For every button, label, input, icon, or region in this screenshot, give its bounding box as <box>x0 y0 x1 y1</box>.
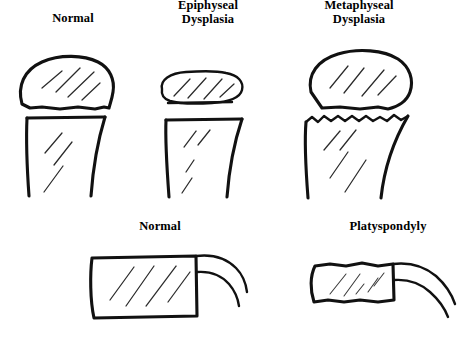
platyspondyly-posterior-element-bottom <box>394 280 448 317</box>
meta-dys-epiphysis-hatching <box>330 66 396 96</box>
dysplastic-epiphysis-hatching <box>174 78 234 99</box>
drawing-platyspondyly <box>311 263 455 317</box>
drawing-metaphyseal-dysplasia <box>305 51 411 198</box>
epi-dys-shaft-right <box>227 119 242 197</box>
platyspondyly-posterior-element-top <box>393 264 455 305</box>
normal-metaphysis-outline <box>27 117 105 118</box>
epi-dys-shaft-hatching <box>182 130 210 193</box>
label-normal-long-bone: Normal <box>18 11 128 25</box>
normal-shaft-right <box>91 117 105 196</box>
normal-vertebral-body-outline <box>91 256 197 318</box>
platyspondyly-body-outline <box>311 263 394 302</box>
dysplastic-epiphysis-base <box>168 102 232 103</box>
normal-posterior-element-bottom <box>197 272 239 306</box>
platyspondyly-body-hatching <box>330 273 384 296</box>
epi-dys-shaft-left <box>166 120 169 197</box>
normal-posterior-element-top <box>196 256 247 293</box>
label-metaphyseal-dysplasia: Metaphyseal Dysplasia <box>296 0 422 26</box>
normal-shaft-left <box>27 118 29 196</box>
drawing-epiphyseal-dysplasia <box>162 71 243 197</box>
epi-dys-metaphysis-outline <box>166 119 242 120</box>
irregular-metaphyseal-margin <box>306 115 408 122</box>
normal-epiphysis-hatching <box>42 68 100 100</box>
meta-dys-shaft-right <box>381 116 408 198</box>
meta-dys-shaft-left <box>305 122 308 198</box>
normal-vertebral-body-hatching <box>110 266 190 306</box>
meta-dys-shaft-hatching <box>324 130 366 192</box>
normal-shaft-hatching <box>44 133 72 192</box>
label-normal-vertebra: Normal <box>105 219 215 233</box>
bone-dysplasia-line-drawing <box>0 0 472 339</box>
label-epiphyseal-dysplasia: Epiphyseal Dysplasia <box>150 0 266 26</box>
medical-diagram-figure: Normal Epiphyseal Dysplasia Metaphyseal … <box>0 0 472 339</box>
label-platyspondyly: Platyspondyly <box>328 219 448 233</box>
drawing-normal-long-bone <box>20 56 113 196</box>
meta-dys-epiphysis-outline <box>310 51 411 109</box>
drawing-normal-vertebra <box>91 256 247 319</box>
